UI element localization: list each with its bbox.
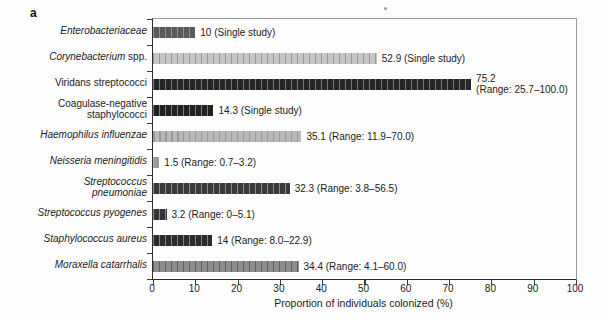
x-tick-label: 30 [273,283,284,294]
category-label: Staphylococcus aureus [0,226,147,252]
bar [153,79,471,90]
x-tick-labels: 0 10 20 30 40 50 60 70 80 90 100 [152,283,575,295]
category-label: Neisseria meningitidis [0,148,147,174]
category-labels: EnterobacteriaceaeCorynebacterium spp.Vi… [0,18,147,278]
bar [153,209,167,220]
x-tick-label: 40 [316,283,327,294]
bar-value-label: 1.5 (Range: 0.7–3.2) [164,157,256,168]
plot-area: 10 (Single study)52.9 (Single study)75.2… [152,18,577,280]
bar-value-label: 52.9 (Single study) [382,53,465,64]
category-label: Corynebacterium spp. [0,44,147,70]
bar-row: 35.1 (Range: 11.9–70.0) [153,123,576,149]
category-label: Streptococcus pyogenes [0,200,147,226]
category-label: Enterobacteriaceae [0,18,147,44]
category-label: Streptococcus pneumoniae [0,174,147,200]
category-label: Coagulase-negative staphylococci [0,96,147,122]
bar [153,183,290,194]
bar-row: 14 (Range: 8.0–22.9) [153,227,576,253]
bar [153,131,301,142]
bar-value-label: 32.3 (Range: 3.8–56.5) [295,183,398,194]
bar-row: 1.5 (Range: 0.7–3.2) [153,149,576,175]
bar [153,53,377,64]
bar-value-label: 3.2 (Range: 0–5.1) [172,209,255,220]
speck-artifact [384,7,387,10]
bar-value-label: 75.2 (Range: 25.7–100.0) [476,73,568,95]
bar-value-label: 14.3 (Single study) [218,105,301,116]
bar [153,27,195,38]
bar-row: 75.2 (Range: 25.7–100.0) [153,71,576,97]
x-tick-label: 80 [485,283,496,294]
x-axis-title: Proportion of individuals colonized (%) [152,297,575,309]
bar-value-label: 14 (Range: 8.0–22.9) [217,235,312,246]
bar-row: 10 (Single study) [153,19,576,45]
bar-row: 32.3 (Range: 3.8–56.5) [153,175,576,201]
bar-row: 52.9 (Single study) [153,45,576,71]
bars-container: 10 (Single study)52.9 (Single study)75.2… [153,19,576,279]
bar-value-label: 34.4 (Range: 4.1–60.0) [304,261,407,272]
x-tick-label: 100 [567,283,584,294]
x-tick-label: 60 [400,283,411,294]
figure-panel: a EnterobacteriaceaeCorynebacterium spp.… [0,0,608,322]
bar [153,157,159,168]
x-tick-label: 10 [189,283,200,294]
bar-value-label: 35.1 (Range: 11.9–70.0) [306,131,414,142]
x-tick-label: 20 [231,283,242,294]
category-label: Haemophilus influenzae [0,122,147,148]
y-axis-ticks [147,19,152,280]
bar-value-label: 10 (Single study) [200,27,275,38]
x-tick-label: 50 [358,283,369,294]
x-tick-label: 70 [443,283,454,294]
bar-row: 14.3 (Single study) [153,97,576,123]
bar-row: 3.2 (Range: 0–5.1) [153,201,576,227]
category-label: Viridans streptococci [0,70,147,96]
x-tick-label: 0 [149,283,155,294]
bar [153,105,213,116]
bar-row: 34.4 (Range: 4.1–60.0) [153,253,576,279]
x-tick-label: 90 [527,283,538,294]
category-label: Moraxella catarrhalis [0,252,147,278]
bar [153,235,212,246]
bar [153,261,299,272]
